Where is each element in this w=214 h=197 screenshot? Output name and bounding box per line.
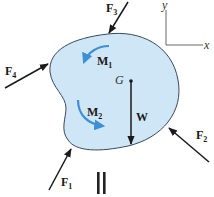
weight-label: W <box>136 110 148 124</box>
force-f2: F2 <box>169 128 209 162</box>
x-axis-label: x <box>203 38 210 52</box>
y-axis-label: y <box>161 0 168 12</box>
f2-label: F2 <box>196 128 207 144</box>
g-label: G <box>115 73 124 87</box>
f4-label: F4 <box>5 64 16 80</box>
force-f3: F3 <box>106 1 128 33</box>
force-f1: F1 <box>49 149 72 191</box>
force-f4: F4 <box>5 64 48 88</box>
f3-label: F3 <box>106 1 117 17</box>
equals-sign-icon <box>97 172 106 194</box>
free-body-diagram: y x F3 F4 F2 F1 M1 M2 G W <box>0 0 214 197</box>
f1-label: F1 <box>61 175 72 191</box>
rigid-body <box>50 33 179 150</box>
coordinate-axes: y x <box>161 0 210 52</box>
